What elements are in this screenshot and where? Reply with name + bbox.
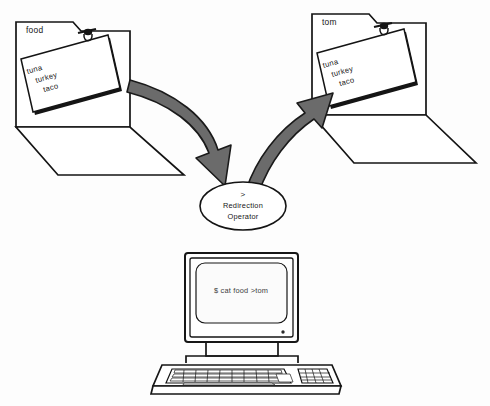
computer-monitor[interactable]: $ cat food >tom bbox=[185, 253, 298, 363]
operator-symbol: > bbox=[241, 190, 246, 199]
computer-keyboard[interactable] bbox=[151, 365, 341, 394]
terminal-screen-text: $ cat food >tom bbox=[214, 286, 268, 295]
keyboard-key-rows bbox=[170, 370, 287, 382]
keyboard-enter-key bbox=[276, 374, 293, 382]
destination-folder[interactable]: tom tuna turkey taco bbox=[312, 14, 476, 163]
source-folder-tab-label: food bbox=[26, 25, 43, 35]
operator-label-line1: Redirection bbox=[223, 201, 263, 210]
operator-node[interactable]: > Redirection Operator bbox=[200, 182, 286, 230]
monitor-stand bbox=[206, 342, 278, 356]
operator-label-line2: Operator bbox=[227, 212, 258, 221]
diagram-canvas: food tuna turkey taco tom bbox=[0, 0, 490, 406]
destination-folder-tab-label: tom bbox=[322, 17, 337, 27]
power-led-indicator bbox=[281, 330, 284, 333]
diagram-svg: food tuna turkey taco tom bbox=[0, 0, 490, 406]
destination-folder-bottom-flap bbox=[312, 115, 476, 163]
keyboard-space-bar bbox=[183, 383, 275, 385]
source-folder-bottom-flap bbox=[16, 127, 184, 175]
keyboard-front-edge bbox=[151, 386, 341, 394]
arrow-operator-to-destination bbox=[246, 93, 333, 192]
monitor-stand-crossbar bbox=[186, 356, 298, 363]
